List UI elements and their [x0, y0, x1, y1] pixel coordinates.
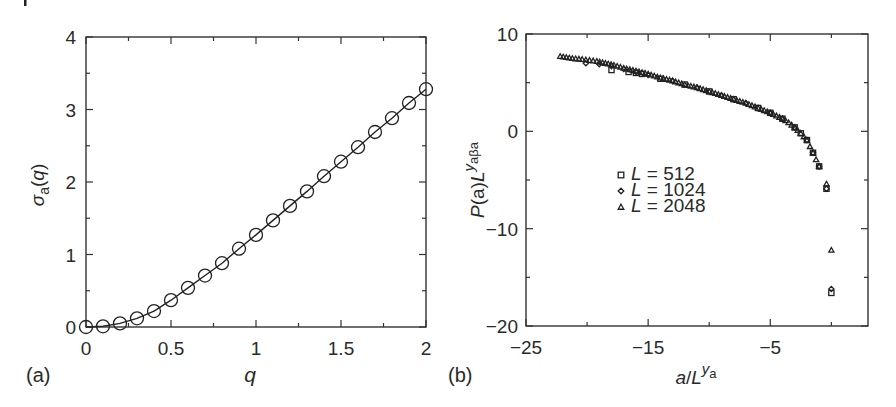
- panel-b-scaling-chart: −25−15−5100−10−20 L = 512L = 1024L = 204…: [448, 24, 868, 388]
- panel-a-data-points: [80, 83, 433, 334]
- panel-b-label: (b): [448, 364, 472, 386]
- diamond-marker: [618, 188, 624, 194]
- y-tick-label: 3: [65, 100, 76, 121]
- y-tick-label: 0: [65, 317, 76, 338]
- diamond-marker: [824, 186, 829, 191]
- triangle-marker: [807, 144, 812, 149]
- panel-b-data-points: [558, 54, 834, 296]
- y-tick-label: 1: [65, 245, 76, 266]
- y-tick-label: 4: [65, 27, 76, 48]
- triangle-marker: [810, 150, 815, 155]
- square-marker: [618, 172, 624, 178]
- panel-a-tick-labels: 00.511.5201234: [65, 27, 431, 359]
- y-tick-label: −10: [486, 219, 518, 240]
- x-tick-label: −5: [759, 337, 781, 358]
- triangle-marker: [817, 164, 822, 169]
- x-tick-label: 0.5: [158, 338, 184, 359]
- y-tick-label: 2: [65, 172, 76, 193]
- panel-a-frame: [86, 37, 426, 327]
- x-tick-label: −15: [632, 337, 664, 358]
- panel-b-x-axis-label: a/Lya: [675, 360, 717, 388]
- panel-a-x-axis-label: q: [244, 363, 256, 386]
- panel-b-y-axis-label: P(a)Lyaβa: [460, 141, 488, 218]
- triangle-marker: [813, 157, 818, 162]
- panel-a-label: (a): [26, 364, 50, 386]
- x-tick-label: 1: [251, 338, 262, 359]
- legend-label: L = 2048: [631, 195, 706, 216]
- legend-item: L = 2048: [618, 195, 705, 216]
- y-tick-label: 0: [507, 121, 518, 142]
- crop-mark: [24, 0, 27, 6]
- panel-b-legend: L = 512L = 1024L = 2048: [618, 163, 706, 216]
- y-tick-label: −20: [486, 316, 518, 337]
- x-tick-label: 2: [421, 338, 432, 359]
- y-tick-label: 10: [497, 24, 518, 45]
- triangle-marker: [591, 58, 596, 63]
- figure-canvas: 00.511.5201234 q σa(q) (a) −25−15−5100−1…: [0, 0, 896, 407]
- x-tick-label: −25: [510, 337, 542, 358]
- panel-a-ticks: [86, 37, 426, 327]
- panel-a-sigma-chart: 00.511.5201234 q σa(q) (a): [26, 27, 433, 386]
- panel-a-y-axis-label: σa(q): [27, 164, 52, 207]
- triangle-marker: [576, 56, 581, 61]
- triangle-marker: [618, 204, 624, 209]
- x-tick-label: 0: [81, 338, 92, 359]
- triangle-marker: [829, 247, 834, 252]
- x-tick-label: 1.5: [328, 338, 354, 359]
